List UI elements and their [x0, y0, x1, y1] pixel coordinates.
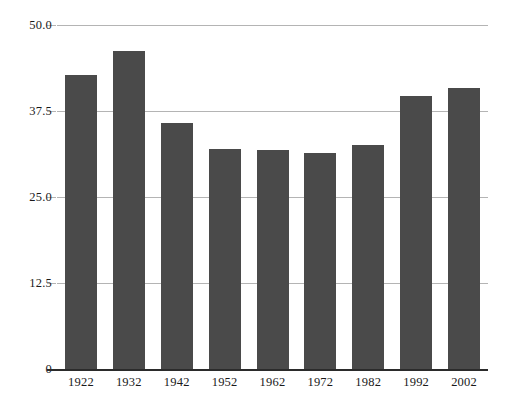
bar[interactable]: [65, 75, 97, 369]
bar[interactable]: [161, 123, 193, 369]
bar[interactable]: [352, 145, 384, 369]
bar[interactable]: [257, 150, 289, 369]
y-axis-tick-label: 25.0: [6, 191, 52, 204]
bar[interactable]: [209, 149, 241, 369]
bar[interactable]: [448, 88, 480, 369]
x-axis-tick-label: 2002: [434, 376, 494, 389]
y-axis-tick-label: 50.0: [6, 19, 52, 32]
x-axis-line: [47, 369, 488, 371]
bar[interactable]: [400, 96, 432, 369]
bar[interactable]: [304, 153, 336, 369]
y-axis-tick-label: 37.5: [6, 105, 52, 118]
bars-layer: [57, 25, 488, 369]
y-axis-tick-label: 12.5: [6, 277, 52, 290]
y-axis: 50.037.525.012.50: [0, 0, 52, 409]
bar[interactable]: [113, 51, 145, 369]
y-axis-tick-label: 0: [6, 363, 52, 376]
bar-chart: 50.037.525.012.50 1922193219421952196219…: [0, 0, 509, 409]
